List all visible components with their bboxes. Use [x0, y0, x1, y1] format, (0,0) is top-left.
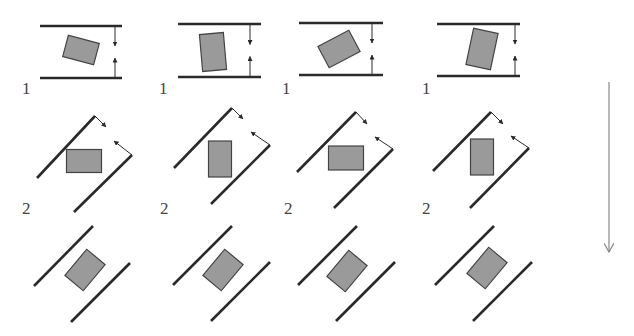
object-between-walls-diagram — [0, 0, 634, 336]
panel-row1-3 — [299, 23, 383, 75]
panel-row3-4 — [435, 226, 532, 321]
row-label: 1 — [22, 80, 31, 97]
row-3-panels — [34, 226, 532, 322]
object-rectangle — [466, 28, 498, 69]
row-label: 2 — [160, 200, 169, 217]
panel-row2-4 — [433, 112, 529, 208]
panel-row3-2 — [173, 226, 270, 321]
gap-arrow-icon — [491, 112, 503, 124]
row-label: 1 — [159, 80, 168, 97]
gap-arrow-icon — [232, 108, 243, 119]
row-label: 1 — [282, 80, 291, 97]
object-rectangle — [467, 247, 507, 288]
object-rectangle — [327, 250, 367, 291]
object-rectangle — [203, 249, 243, 290]
gap-arrow-icon — [375, 137, 393, 149]
diagram-canvas: 11112222 — [0, 0, 634, 336]
gap-arrow-icon — [356, 112, 367, 124]
gap-arrow-icon — [251, 132, 270, 145]
object-rectangle — [65, 249, 105, 290]
row-label: 2 — [284, 200, 293, 217]
row-label: 2 — [22, 200, 31, 217]
gap-arrow-icon — [511, 136, 529, 148]
object-rectangle — [67, 150, 102, 173]
panel-row2-2 — [174, 108, 270, 204]
row-2-panels — [37, 108, 529, 212]
panel-row3-1 — [34, 226, 130, 322]
object-rectangle — [209, 141, 232, 177]
gap-arrow-icon — [114, 141, 132, 155]
row-label: 2 — [422, 200, 431, 217]
panel-row1-4 — [437, 24, 520, 76]
object-rectangle — [329, 146, 364, 170]
panel-row1-2 — [178, 24, 261, 77]
object-rectangle — [471, 139, 494, 175]
panel-row1-1 — [40, 26, 122, 78]
row-label: 1 — [422, 80, 431, 97]
panel-row2-3 — [297, 112, 393, 208]
object-rectangle — [199, 33, 226, 72]
object-rectangle — [63, 35, 100, 65]
panel-row3-3 — [298, 226, 395, 321]
panel-row2-1 — [37, 116, 132, 212]
gap-arrow-icon — [95, 116, 106, 127]
object-rectangle — [318, 30, 360, 68]
row-1-panels — [40, 23, 520, 78]
